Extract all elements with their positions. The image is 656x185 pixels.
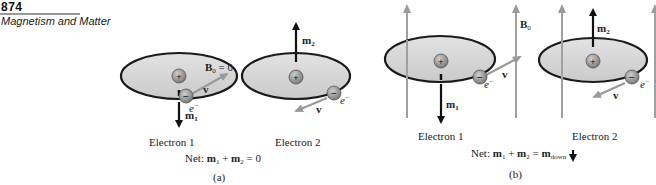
svg-text:m2: m2 <box>302 34 315 48</box>
panel-b-electron-1: + m1 v − e− Electron 1 <box>385 36 520 142</box>
net-equation-a: Net: m1 + m2 = 0 <box>185 152 261 166</box>
caption-electron-1: Electron 1 <box>418 130 464 142</box>
figure-magnetic-moments: + m1 v − e− B0 = 0 Electron 1 m2 + v − e… <box>0 0 656 185</box>
svg-text:+: + <box>293 73 298 83</box>
svg-text:v: v <box>502 68 508 80</box>
svg-text:m1: m1 <box>446 98 459 112</box>
caption-electron-2: Electron 2 <box>572 130 618 142</box>
panel-b-electron-2: m2 + v − e− Electron 2 <box>539 10 650 142</box>
panel-b: B0 + m1 v − e− Electron 1 m2 + v <box>385 6 655 181</box>
net-equation-b: Net: m1 + m2 = mdown <box>471 147 567 161</box>
svg-text:−: − <box>629 72 635 83</box>
svg-text:e−: e− <box>484 78 494 90</box>
velocity-arrow-icon <box>594 83 625 97</box>
svg-text:e−: e− <box>640 78 650 90</box>
panel-a-electron-2: m2 + v − e− Electron 2 <box>242 24 350 148</box>
svg-text:−: − <box>331 88 337 99</box>
svg-text:+: + <box>438 57 443 67</box>
svg-text:+: + <box>176 72 181 82</box>
svg-text:v: v <box>203 83 209 95</box>
caption-electron-1: Electron 1 <box>149 136 195 148</box>
svg-text:v: v <box>613 89 619 101</box>
svg-text:e−: e− <box>340 94 350 106</box>
field-label-b: B0 <box>520 18 531 32</box>
panel-label-b: (b) <box>509 168 522 181</box>
panel-a-electron-1: + m1 v − e− B0 = 0 Electron 1 <box>121 53 237 148</box>
panel-a: + m1 v − e− B0 = 0 Electron 1 m2 + v − e… <box>121 24 350 184</box>
svg-text:B0 = 0: B0 = 0 <box>205 61 234 75</box>
panel-label-a: (a) <box>213 171 226 184</box>
svg-text:−: − <box>183 91 189 102</box>
svg-text:v: v <box>316 103 322 115</box>
svg-text:+: + <box>590 57 595 67</box>
caption-electron-2: Electron 2 <box>275 136 321 148</box>
svg-text:m2: m2 <box>597 22 610 36</box>
svg-text:−: − <box>477 72 483 83</box>
